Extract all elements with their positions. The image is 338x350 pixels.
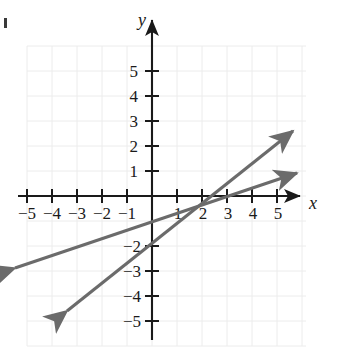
y-tick-label-neg5: −5: [123, 312, 141, 331]
y-tick-label-1: 1: [130, 162, 139, 181]
x-tick-label-neg1: −1: [118, 204, 136, 223]
y-axis-label: y: [136, 10, 146, 30]
x-tick-label-neg2: −2: [93, 204, 111, 223]
page-edge-mark: [4, 18, 7, 28]
y-tick-label-2: 2: [130, 137, 139, 156]
x-tick-label-neg5: −5: [18, 204, 36, 223]
y-tick-label-4: 4: [130, 87, 139, 106]
x-axis-label: x: [308, 193, 317, 213]
y-tick-label-3: 3: [130, 112, 139, 131]
x-tick-label-neg3: −3: [68, 204, 86, 223]
coordinate-plane-graph: −5 −4 −3 −2 −1 1 2 3 4 5 5 4 3 2 1 −2 −3…: [0, 0, 338, 350]
x-tick-label-4: 4: [249, 204, 258, 223]
y-tick-label-5: 5: [130, 62, 139, 81]
x-tick-label-3: 3: [224, 204, 233, 223]
x-tick-label-neg4: −4: [43, 204, 62, 223]
y-tick-label-neg4: −4: [123, 287, 142, 306]
x-tick-label-5: 5: [274, 204, 283, 223]
